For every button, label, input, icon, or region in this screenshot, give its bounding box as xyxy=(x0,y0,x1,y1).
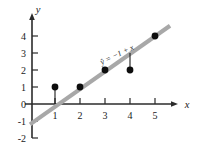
scatter-plot-figure: 4 3 2 1 0 -1 -2 1 2 3 4 5 y x ŷ = −1 + … xyxy=(0,0,197,150)
x-tick-label: 2 xyxy=(78,110,83,121)
x-axis-label: x xyxy=(184,99,190,110)
y-tick-labels: 4 3 2 1 0 -1 -2 xyxy=(18,31,26,144)
data-point xyxy=(127,67,134,74)
y-tick-label: -2 xyxy=(18,133,26,144)
y-axis-label: y xyxy=(35,4,41,15)
data-point xyxy=(152,33,159,40)
x-axis xyxy=(25,98,178,107)
x-axis-arrow xyxy=(171,101,178,107)
x-tick-label: 1 xyxy=(53,110,58,121)
data-point xyxy=(102,67,109,74)
y-tick-label: 2 xyxy=(21,65,26,76)
regression-line xyxy=(30,26,170,125)
x-tick-label: 3 xyxy=(103,110,108,121)
y-tick-label: 4 xyxy=(21,31,26,42)
x-tick-label: 4 xyxy=(128,110,133,121)
y-tick-label: -1 xyxy=(18,116,26,127)
y-axis-arrow xyxy=(29,13,35,20)
x-tick-labels: 1 2 3 4 5 xyxy=(53,110,158,121)
data-point xyxy=(52,84,59,91)
data-point xyxy=(77,84,84,91)
y-tick-label: 1 xyxy=(21,82,26,93)
plot-canvas: 4 3 2 1 0 -1 -2 1 2 3 4 5 y x ŷ = −1 + … xyxy=(0,0,197,150)
y-tick-label: 3 xyxy=(21,48,26,59)
y-tick-label: 0 xyxy=(21,99,26,110)
x-tick-label: 5 xyxy=(153,110,158,121)
fit-line-segment xyxy=(30,26,170,125)
